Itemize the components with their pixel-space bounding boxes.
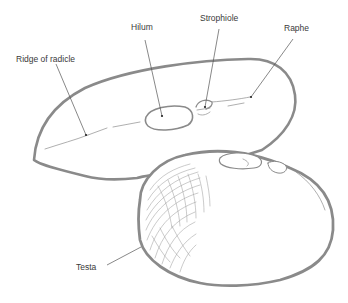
- label-testa: Testa: [76, 263, 96, 272]
- label-hilum: Hilum: [131, 23, 153, 32]
- seed-diagram: [0, 0, 348, 303]
- leader-testa: [107, 247, 141, 265]
- label-ridge-of-radicle: Ridge of radicle: [16, 55, 75, 64]
- label-raphe: Raphe: [284, 24, 309, 33]
- label-strophiole: Strophiole: [200, 14, 238, 23]
- front-seed: [139, 151, 334, 285]
